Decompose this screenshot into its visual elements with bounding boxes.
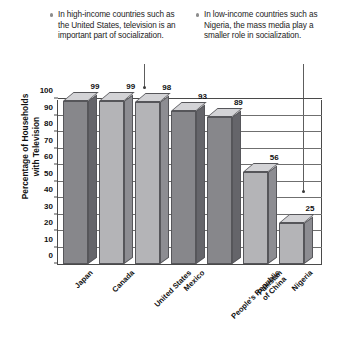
bar-front-face <box>279 223 304 264</box>
bar-side-face <box>268 165 277 264</box>
bullet-icon <box>196 13 199 16</box>
bar-japan: 99Japan <box>63 101 88 264</box>
bar-side-face <box>304 216 313 264</box>
bar-value-label: 98 <box>147 83 187 92</box>
y-tick-mark-70 <box>54 147 58 148</box>
y-tick-label-70: 70 <box>44 135 53 144</box>
callout-low-income-text: In low-income countries such as Nigeria,… <box>196 10 324 42</box>
y-tick-label-90: 90 <box>44 102 53 111</box>
bar-side-face <box>196 104 205 264</box>
x-axis-label-line: Nigeria <box>289 268 314 293</box>
y-tick-mark-20 <box>54 230 58 231</box>
bar-value-label: 93 <box>183 92 223 101</box>
bar-value-label: 99 <box>75 82 115 91</box>
bar-canada: 99Canada <box>99 101 124 264</box>
bar-front-face <box>171 111 196 264</box>
bar-people-s-republic-of-china: 89People's Republicof China <box>207 117 232 264</box>
bar-front-face <box>243 172 268 264</box>
callout-high-income-text: In high-income countries such as the Uni… <box>50 10 182 42</box>
y-axis-title-line2: with Television <box>30 117 40 176</box>
bar-front-face <box>135 102 160 264</box>
y-axis-title: Percentage of Households with Television <box>20 72 41 222</box>
bar-mexico: 93Mexico <box>171 111 196 264</box>
x-axis-label-line: Canada <box>111 268 137 294</box>
bar-value-label: 89 <box>218 98 258 107</box>
y-tick-label-0: 0 <box>49 251 53 260</box>
y-axis-title-line1: Percentage of Households <box>20 94 30 200</box>
y-tick-label-60: 60 <box>44 152 53 161</box>
y-tick-label-30: 30 <box>44 201 53 210</box>
bar-pakistan: 56Pakistan <box>243 172 268 264</box>
callout-high-income: In high-income countries such as the Uni… <box>50 10 182 42</box>
y-tick-label-50: 50 <box>44 168 53 177</box>
bar-side-face <box>232 111 241 264</box>
y-tick-label-100: 100 <box>40 86 53 95</box>
y-tick-mark-10 <box>54 246 58 247</box>
y-tick-mark-90 <box>54 114 58 115</box>
bullet-icon <box>50 13 53 16</box>
y-tick-label-80: 80 <box>44 119 53 128</box>
y-tick-mark-30 <box>54 213 58 214</box>
bar-united-states: 98United States <box>135 102 160 264</box>
y-tick-label-10: 10 <box>44 234 53 243</box>
y-tick-label-40: 40 <box>44 185 53 194</box>
bar-value-label: 25 <box>290 204 330 213</box>
y-tick-label-20: 20 <box>44 218 53 227</box>
bar-front-face <box>99 101 124 264</box>
bar-side-face <box>88 94 97 264</box>
bar-side-face <box>124 94 133 264</box>
y-tick-mark-50 <box>54 180 58 181</box>
y-tick-mark-0 <box>54 263 58 264</box>
x-axis-label-line: Japan <box>73 268 95 290</box>
callout-low-income: In low-income countries such as Nigeria,… <box>196 10 324 42</box>
x-axis-label: Nigeria <box>290 269 314 293</box>
plot-area: 0102030405060708090100 99Japan99Canada98… <box>57 100 322 265</box>
bar-side-face <box>160 96 169 264</box>
bar-front-face <box>63 101 88 264</box>
plot-right-border <box>321 100 322 264</box>
bar-nigeria: 25Nigeria <box>279 223 304 264</box>
y-tick-mark-40 <box>54 197 58 198</box>
y-tick-mark-100 <box>54 98 58 99</box>
x-axis-label: Japan <box>74 269 96 291</box>
bar-value-label: 56 <box>254 153 294 162</box>
x-axis-label: Canada <box>111 269 136 294</box>
y-tick-mark-80 <box>54 131 58 132</box>
y-tick-mark-60 <box>54 164 58 165</box>
television-households-bar-chart: In high-income countries such as the Uni… <box>0 0 342 354</box>
bar-value-label: 99 <box>111 82 151 91</box>
bar-front-face <box>207 117 232 264</box>
